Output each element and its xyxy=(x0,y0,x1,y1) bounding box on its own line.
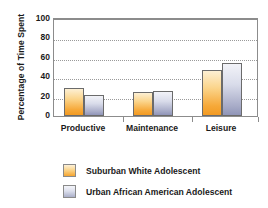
bars-layer xyxy=(54,19,257,116)
chart-legend: Suburban White AdolescentUrban African A… xyxy=(63,160,263,202)
bar-maintenance-series-1 xyxy=(133,92,153,116)
x-label-maintenance: Maintenance xyxy=(113,123,191,133)
x-label-leisure: Leisure xyxy=(182,123,260,133)
bar-group-maintenance xyxy=(133,19,173,116)
y-tick-label-20: 20 xyxy=(26,92,50,101)
x-axis-tick-1 xyxy=(123,117,124,122)
y-tick-label-0: 0 xyxy=(26,111,50,120)
x-axis-tick-labels: ProductiveMaintenanceLeisure xyxy=(53,123,258,137)
legend-swatch-2 xyxy=(63,185,76,198)
y-tick-label-40: 40 xyxy=(26,72,50,81)
bar-group-productive xyxy=(64,19,104,116)
y-tick-label-80: 80 xyxy=(26,33,50,42)
y-axis-tick-labels: 100806040200 xyxy=(22,18,50,117)
y-tick-label-60: 60 xyxy=(26,53,50,62)
y-tick-label-100: 100 xyxy=(26,14,50,23)
legend-label-2: Urban African American Adolescent xyxy=(86,187,232,197)
bar-maintenance-series-2 xyxy=(153,91,173,116)
x-axis-tick-2 xyxy=(192,117,193,122)
x-axis-tick-3 xyxy=(258,117,259,122)
bar-productive-series-1 xyxy=(64,88,84,116)
x-label-productive: Productive xyxy=(44,123,122,133)
legend-label-1: Suburban White Adolescent xyxy=(86,166,200,176)
legend-item-1: Suburban White Adolescent xyxy=(63,160,263,181)
bar-productive-series-2 xyxy=(84,95,104,116)
bar-leisure-series-2 xyxy=(222,63,242,116)
bar-group-leisure xyxy=(202,19,242,116)
bar-leisure-series-1 xyxy=(202,70,222,116)
bar-chart: Percentage of Time Spent 100806040200 Pr… xyxy=(0,0,268,208)
legend-item-2: Urban African American Adolescent xyxy=(63,181,263,202)
legend-swatch-1 xyxy=(63,164,76,177)
